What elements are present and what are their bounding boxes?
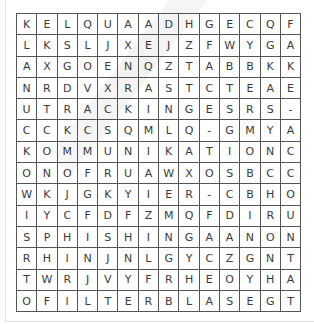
grid-cell[interactable]: N: [17, 78, 37, 99]
grid-cell[interactable]: A: [281, 270, 301, 291]
grid-cell[interactable]: J: [98, 35, 118, 56]
grid-cell[interactable]: Q: [179, 120, 199, 141]
grid-cell[interactable]: C: [58, 206, 78, 227]
grid-cell[interactable]: A: [17, 57, 37, 78]
grid-cell[interactable]: H: [179, 270, 199, 291]
grid-cell[interactable]: I: [139, 142, 159, 163]
grid-cell[interactable]: R: [159, 270, 179, 291]
grid-cell[interactable]: -: [281, 99, 301, 120]
grid-cell[interactable]: O: [17, 163, 37, 184]
grid-cell[interactable]: Z: [220, 248, 240, 269]
grid-cell[interactable]: Y: [118, 270, 138, 291]
grid-cell[interactable]: L: [159, 120, 179, 141]
grid-cell[interactable]: G: [179, 227, 199, 248]
grid-cell[interactable]: Y: [179, 248, 199, 269]
grid-cell[interactable]: I: [17, 206, 37, 227]
grid-cell[interactable]: K: [37, 184, 57, 205]
grid-cell[interactable]: T: [179, 78, 199, 99]
grid-cell[interactable]: K: [159, 142, 179, 163]
grid-cell[interactable]: N: [281, 227, 301, 248]
grid-cell[interactable]: A: [281, 120, 301, 141]
grid-cell[interactable]: N: [159, 99, 179, 120]
grid-cell[interactable]: K: [17, 142, 37, 163]
grid-cell[interactable]: K: [58, 120, 78, 141]
grid-cell[interactable]: O: [58, 163, 78, 184]
grid-cell[interactable]: T: [37, 99, 57, 120]
grid-cell[interactable]: K: [281, 57, 301, 78]
grid-cell[interactable]: D: [58, 78, 78, 99]
grid-cell[interactable]: S: [261, 99, 281, 120]
grid-cell[interactable]: C: [200, 248, 220, 269]
grid-cell[interactable]: H: [261, 270, 281, 291]
grid-cell[interactable]: Q: [179, 206, 199, 227]
grid-cell[interactable]: C: [220, 184, 240, 205]
grid-cell[interactable]: U: [281, 206, 301, 227]
grid-cell[interactable]: K: [98, 184, 118, 205]
grid-cell[interactable]: H: [37, 248, 57, 269]
grid-cell[interactable]: S: [159, 78, 179, 99]
grid-cell[interactable]: E: [139, 35, 159, 56]
grid-cell[interactable]: G: [240, 248, 260, 269]
grid-cell[interactable]: E: [200, 270, 220, 291]
grid-cell[interactable]: G: [200, 14, 220, 35]
grid-cell[interactable]: I: [58, 291, 78, 312]
grid-cell[interactable]: B: [240, 57, 260, 78]
grid-cell[interactable]: N: [261, 142, 281, 163]
grid-cell[interactable]: E: [240, 291, 260, 312]
grid-cell[interactable]: R: [17, 248, 37, 269]
grid-cell[interactable]: R: [179, 184, 199, 205]
grid-cell[interactable]: Y: [240, 35, 260, 56]
grid-cell[interactable]: T: [200, 142, 220, 163]
grid-cell[interactable]: J: [78, 270, 98, 291]
grid-cell[interactable]: X: [118, 35, 138, 56]
grid-cell[interactable]: O: [281, 184, 301, 205]
grid-cell[interactable]: A: [139, 163, 159, 184]
grid-cell[interactable]: H: [118, 227, 138, 248]
grid-cell[interactable]: T: [220, 78, 240, 99]
grid-cell[interactable]: H: [58, 227, 78, 248]
grid-cell[interactable]: N: [118, 142, 138, 163]
grid-cell[interactable]: F: [78, 163, 98, 184]
grid-cell[interactable]: X: [98, 78, 118, 99]
grid-cell[interactable]: W: [220, 35, 240, 56]
grid-cell[interactable]: C: [78, 120, 98, 141]
grid-cell[interactable]: A: [78, 99, 98, 120]
grid-cell[interactable]: D: [159, 14, 179, 35]
grid-cell[interactable]: S: [220, 291, 240, 312]
grid-cell[interactable]: K: [261, 57, 281, 78]
grid-cell[interactable]: N: [78, 248, 98, 269]
grid-cell[interactable]: A: [281, 35, 301, 56]
grid-cell[interactable]: A: [118, 14, 138, 35]
grid-cell[interactable]: M: [159, 206, 179, 227]
grid-cell[interactable]: N: [159, 227, 179, 248]
grid-cell[interactable]: P: [37, 227, 57, 248]
grid-cell[interactable]: U: [17, 99, 37, 120]
grid-cell[interactable]: V: [98, 270, 118, 291]
grid-cell[interactable]: L: [179, 291, 199, 312]
grid-cell[interactable]: S: [220, 99, 240, 120]
grid-cell[interactable]: C: [261, 163, 281, 184]
grid-cell[interactable]: T: [17, 270, 37, 291]
grid-cell[interactable]: R: [240, 99, 260, 120]
grid-cell[interactable]: E: [98, 57, 118, 78]
grid-cell[interactable]: U: [118, 163, 138, 184]
grid-cell[interactable]: N: [118, 57, 138, 78]
grid-cell[interactable]: L: [78, 35, 98, 56]
grid-cell[interactable]: Q: [261, 14, 281, 35]
grid-cell[interactable]: B: [240, 163, 260, 184]
grid-cell[interactable]: C: [281, 163, 301, 184]
grid-cell[interactable]: M: [139, 120, 159, 141]
grid-cell[interactable]: A: [220, 227, 240, 248]
grid-cell[interactable]: F: [78, 206, 98, 227]
grid-cell[interactable]: O: [78, 57, 98, 78]
grid-cell[interactable]: O: [261, 227, 281, 248]
grid-cell[interactable]: G: [261, 291, 281, 312]
grid-cell[interactable]: C: [281, 142, 301, 163]
grid-cell[interactable]: A: [200, 227, 220, 248]
grid-cell[interactable]: H: [179, 14, 199, 35]
grid-cell[interactable]: S: [220, 163, 240, 184]
grid-cell[interactable]: G: [261, 35, 281, 56]
grid-cell[interactable]: W: [17, 184, 37, 205]
grid-cell[interactable]: O: [37, 142, 57, 163]
grid-cell[interactable]: J: [98, 248, 118, 269]
